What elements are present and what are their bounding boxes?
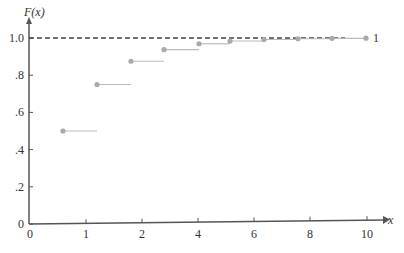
data-point bbox=[261, 37, 266, 42]
y-tick-label: .8 bbox=[0, 69, 24, 81]
x-tick-label: 4 bbox=[188, 228, 208, 240]
data-point bbox=[128, 59, 133, 64]
step-series bbox=[60, 36, 368, 134]
x-tick-label: 0 bbox=[20, 228, 40, 240]
x-tick-label: 8 bbox=[300, 228, 320, 240]
data-point bbox=[227, 38, 232, 43]
data-point bbox=[60, 128, 65, 133]
y-tick-label: 1.0 bbox=[0, 32, 24, 44]
y-axis-title: F(x) bbox=[24, 6, 45, 18]
data-point bbox=[329, 36, 334, 41]
y-tick-label: .6 bbox=[0, 106, 24, 118]
y-tick-label: .2 bbox=[0, 181, 24, 193]
x-tick-label: 6 bbox=[244, 228, 264, 240]
data-point bbox=[295, 36, 300, 41]
reference-label: 1 bbox=[373, 32, 379, 44]
data-point bbox=[363, 36, 368, 41]
x-tick-label: 10 bbox=[357, 228, 377, 240]
x-tick-label: 2 bbox=[132, 228, 152, 240]
cdf-chart bbox=[0, 0, 404, 253]
x-axis-title: x bbox=[388, 214, 393, 226]
data-point bbox=[161, 47, 166, 52]
data-point bbox=[196, 41, 201, 46]
data-point bbox=[94, 82, 99, 87]
y-tick-label: .4 bbox=[0, 144, 24, 156]
axes bbox=[26, 17, 390, 224]
x-tick-label: 1 bbox=[76, 228, 96, 240]
